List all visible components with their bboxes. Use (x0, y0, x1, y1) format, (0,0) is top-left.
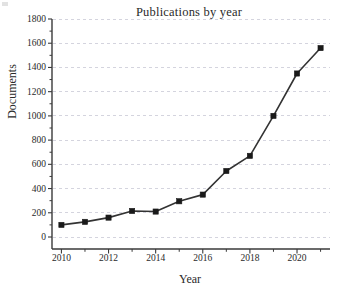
axis-ticks (48, 19, 321, 254)
axis-lines (52, 19, 330, 249)
gridlines (53, 19, 330, 237)
chart-figure: Publications by year Documents Year 0200… (0, 0, 338, 294)
series-line-documents (61, 48, 320, 225)
series-markers-documents (59, 45, 323, 227)
plot-area (0, 0, 338, 294)
